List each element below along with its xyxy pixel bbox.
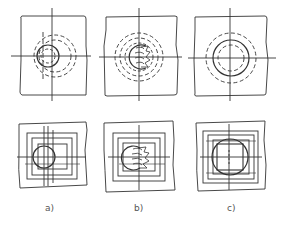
panel-c-bottom: [196, 121, 266, 191]
label-a: a): [45, 203, 54, 213]
label-b: b): [134, 203, 143, 213]
panel-b-bottom: [104, 121, 175, 192]
diagram-figure: [0, 0, 284, 225]
panel-a-bottom: [17, 122, 87, 188]
label-c: c): [227, 203, 235, 213]
panel-b-top: [99, 8, 182, 101]
panel-c-top: [188, 8, 276, 101]
panel-a-top: [11, 8, 91, 101]
